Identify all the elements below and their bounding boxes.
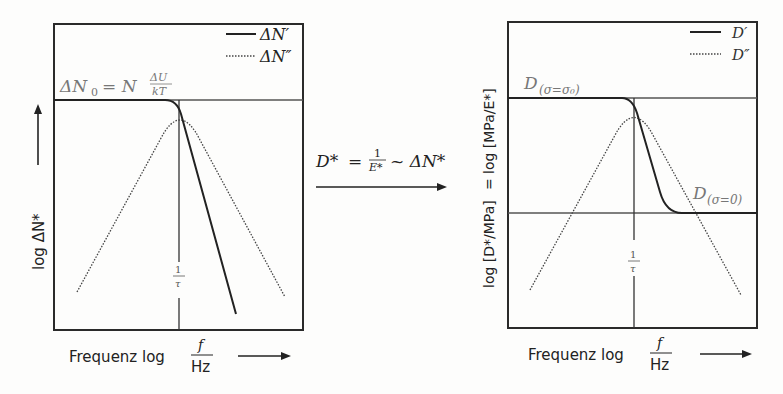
formula-rhs: ~ ΔN* <box>390 151 446 171</box>
right-y-label-eq: = <box>481 178 497 190</box>
formula-frac-num: 1 <box>374 147 381 160</box>
level-frac-den: kT <box>152 85 168 98</box>
upper-level-label: D <box>523 73 538 93</box>
upper-level-sub: (σ=σ₀) <box>539 83 580 97</box>
left-y-axis-arrow <box>34 104 42 165</box>
right-x-label-num: f <box>656 335 665 351</box>
right-y-axis-label: log [D*/MPa] = log [MPa/E*] <box>481 88 497 288</box>
level-frac-num: ΔU <box>149 71 168 84</box>
legend-label-d-prime: D′ <box>731 24 748 42</box>
left-x-label-prefix: Frequenz log <box>69 348 165 366</box>
left-solid-curve <box>54 100 236 314</box>
formula-lhs: D* <box>315 151 339 171</box>
level-eq: = N <box>102 76 138 96</box>
formula-eq: = <box>348 151 362 171</box>
right-y-label-left: log [D*/MPa] <box>481 200 497 288</box>
left-tau-num: 1 <box>175 264 181 275</box>
legend-label-dn-double-prime: ΔN″ <box>259 47 292 66</box>
left-y-axis-label: log ΔN* <box>30 213 48 270</box>
left-x-axis-arrow <box>238 352 291 360</box>
right-tau-num: 1 <box>630 249 636 260</box>
right-y-label-right: log [MPa/E*] <box>481 88 497 174</box>
right-tau-den: τ <box>630 263 636 274</box>
left-x-label-den: Hz <box>191 358 210 376</box>
left-level-label: ΔN 0 = N ΔU kT <box>59 71 172 99</box>
level-main: ΔN <box>59 76 88 96</box>
transform-arrow <box>316 183 447 191</box>
right-x-axis-arrow <box>700 350 752 358</box>
legend-label-d-double-prime: D″ <box>731 46 750 64</box>
right-plot-frame <box>508 22 757 328</box>
level-sub: 0 <box>91 86 98 99</box>
lower-level-sub: (σ=0) <box>707 193 743 207</box>
lower-level-label: D <box>692 183 707 203</box>
right-plot <box>508 22 757 328</box>
left-tau-den: τ <box>175 278 181 289</box>
transform-formula: D* = 1 E* ~ ΔN* <box>315 147 446 174</box>
right-x-label-prefix: Frequenz log <box>528 346 624 364</box>
right-x-label-den: Hz <box>650 356 669 374</box>
formula-frac-den: E* <box>368 161 383 174</box>
left-x-label-num: f <box>197 337 206 353</box>
legend-label-dn-prime: ΔN′ <box>259 25 290 44</box>
